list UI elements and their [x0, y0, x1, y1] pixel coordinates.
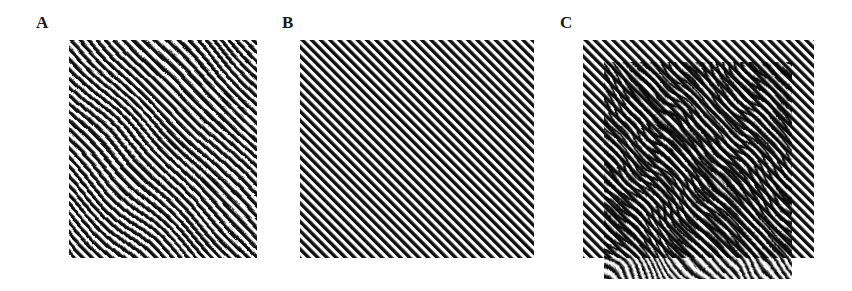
panel-c-label: C [560, 14, 572, 31]
moire-overlay-image [583, 40, 814, 279]
panel-b-description: Regular straight diagonal grating [300, 258, 301, 259]
panel-b-label: B [282, 14, 293, 31]
warped-grating-image [69, 40, 257, 258]
panel-a-description: Diagonal grating with smooth local warp … [69, 258, 70, 259]
straight-grating-image [300, 40, 534, 258]
panel-c-moire-overlay: Superposition of A and B (offset) produc… [583, 40, 814, 279]
panel-a-warped-grating: Diagonal grating with smooth local warp … [69, 40, 257, 258]
panel-a-label: A [36, 14, 48, 31]
panel-c-description: Superposition of A and B (offset) produc… [583, 279, 584, 280]
panel-b-straight-grating: Regular straight diagonal grating [300, 40, 534, 258]
